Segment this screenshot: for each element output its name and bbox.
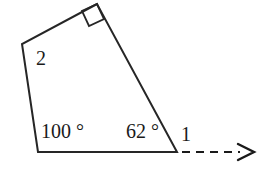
angle-label-right: 62 ° xyxy=(126,121,159,141)
side-label-two: 2 xyxy=(36,48,46,68)
side-label-one: 1 xyxy=(181,124,191,144)
right-angle-marker-icon xyxy=(82,4,104,26)
geometry-figure: 100 ° 62 ° 1 2 xyxy=(0,0,271,173)
arrowhead-icon xyxy=(238,144,254,160)
angle-label-left: 100 ° xyxy=(41,121,84,141)
geometry-canvas xyxy=(0,0,271,173)
